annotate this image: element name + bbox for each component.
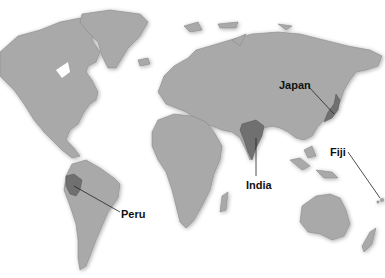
map-shapes [0, 0, 385, 278]
fiji-leader [348, 152, 380, 198]
label-india: India [246, 180, 272, 191]
label-fiji: Fiji [330, 147, 346, 158]
australia [300, 194, 350, 240]
world-map: Japan India Fiji Peru [0, 0, 385, 278]
label-peru: Peru [121, 209, 145, 220]
north-america [0, 18, 100, 158]
label-japan: Japan [279, 80, 311, 91]
africa [152, 114, 222, 228]
